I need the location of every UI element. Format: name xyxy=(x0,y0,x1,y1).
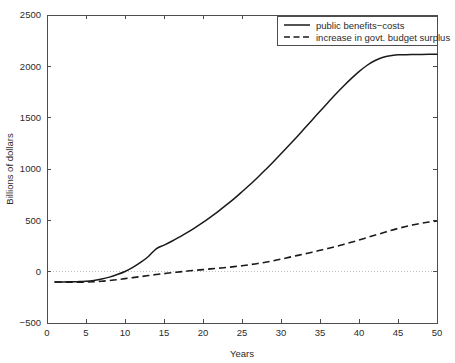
y-tick-label: 1000 xyxy=(20,163,41,174)
x-tick-label: 50 xyxy=(432,327,443,338)
x-tick-label: 10 xyxy=(120,327,131,338)
y-tick-label: 2500 xyxy=(20,9,41,20)
y-tick-label: −500 xyxy=(20,317,41,328)
chart-legend: public benefits−costs increase in govt. … xyxy=(277,16,450,45)
x-tick-label: 15 xyxy=(159,327,170,338)
x-tick-label: 5 xyxy=(83,327,88,338)
y-tick-label: 2000 xyxy=(20,61,41,72)
line-chart-canvas: 05101520253035404550 −500050010001500200… xyxy=(0,0,455,363)
x-tick-label: 30 xyxy=(276,327,287,338)
legend-label-0: public benefits−costs xyxy=(316,20,405,31)
x-tick-label: 40 xyxy=(354,327,365,338)
legend-label-1: increase in govt. budget surplus xyxy=(316,32,450,43)
y-axis-title: Billions of dollars xyxy=(4,133,15,205)
figure-background xyxy=(0,0,455,363)
x-tick-label: 0 xyxy=(44,327,49,338)
x-tick-label: 35 xyxy=(315,327,326,338)
y-tick-label: 1500 xyxy=(20,112,41,123)
y-tick-label: 500 xyxy=(25,215,41,226)
x-tick-label: 25 xyxy=(237,327,248,338)
x-tick-label: 45 xyxy=(393,327,404,338)
chart-figure: 05101520253035404550 −500050010001500200… xyxy=(0,0,455,363)
x-tick-label: 20 xyxy=(198,327,209,338)
x-axis-title: Years xyxy=(230,348,254,359)
y-tick-label: 0 xyxy=(36,266,41,277)
